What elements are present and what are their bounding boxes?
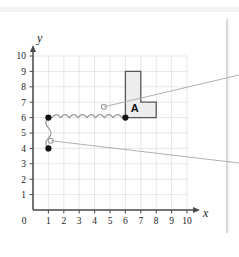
spring-path — [48, 115, 125, 118]
axes — [30, 45, 200, 213]
y-tick-label: 3 — [21, 159, 26, 169]
plot-card: 01234567891012345678910yxA — [12, 17, 226, 233]
y-axis-label: y — [36, 31, 43, 45]
x-tick-label: 7 — [138, 216, 143, 226]
y-tick-label: 2 — [21, 175, 26, 185]
open-point — [48, 138, 53, 143]
y-tick-label: 1 — [21, 190, 26, 200]
shape-A-label: A — [131, 102, 139, 114]
x-axis-arrowhead — [193, 207, 200, 213]
y-tick-label: 4 — [21, 144, 26, 154]
coordinate-plot: 01234567891012345678910yxA — [12, 17, 226, 233]
filled-point — [45, 115, 51, 121]
y-tick-label: 10 — [17, 51, 27, 61]
spring-group — [46, 115, 126, 149]
filled-point — [45, 145, 51, 151]
filled-point — [122, 115, 128, 121]
y-tick-label: 6 — [21, 113, 26, 123]
x-tick-label: 6 — [123, 216, 128, 226]
x-tick-label: 8 — [154, 216, 159, 226]
x-tick-label: 1 — [46, 216, 51, 226]
y-tick-label: 7 — [21, 98, 26, 108]
y-tick-label: 9 — [21, 67, 26, 77]
figure-root: 01234567891012345678910yxA — [0, 0, 239, 257]
top-shadow-band — [0, 7, 239, 12]
tick-labels: 01234567891012345678910 — [17, 51, 193, 226]
x-tick-label: 0 — [22, 216, 27, 226]
x-tick-label: 3 — [77, 216, 82, 226]
open-point — [101, 104, 106, 109]
x-tick-label: 2 — [61, 216, 66, 226]
x-tick-label: 10 — [182, 216, 192, 226]
x-tick-label: 4 — [92, 216, 97, 226]
grid-lines — [33, 56, 187, 210]
x-axis-label: x — [202, 206, 209, 220]
x-tick-label: 5 — [108, 216, 113, 226]
x-tick-label: 9 — [169, 216, 174, 226]
y-axis-arrowhead — [30, 45, 36, 52]
y-tick-label: 5 — [21, 128, 26, 138]
bottom-margin — [0, 233, 239, 257]
y-tick-label: 8 — [21, 82, 26, 92]
